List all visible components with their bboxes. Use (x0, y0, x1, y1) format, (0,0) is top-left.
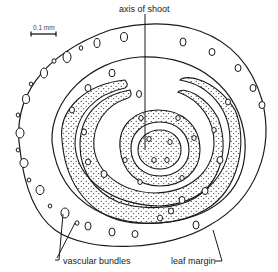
scale-bar-label: 0.1 mm (33, 23, 55, 33)
vascular-bundles-label: vascular bundles (63, 256, 131, 266)
vascular-pointers (55, 214, 75, 260)
axis-of-shoot-label: axis of shoot (119, 4, 170, 14)
inner-leaf (120, 110, 200, 186)
shoot-cross-section (0, 0, 278, 272)
leaf-margin-label: leaf margin (171, 256, 216, 266)
